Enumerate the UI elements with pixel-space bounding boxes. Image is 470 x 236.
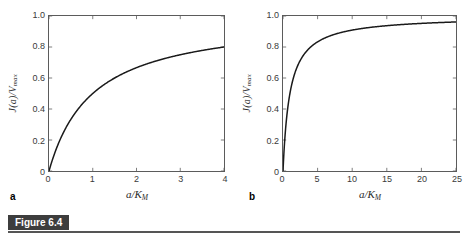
x-axis-title-main: a/K [359, 188, 375, 200]
y-tick-label: 0.8 [19, 42, 45, 51]
x-tick-label: 5 [314, 175, 319, 184]
plot-area-a [48, 15, 225, 172]
y-tick-label: 0.8 [253, 42, 279, 51]
y-tick-label: 0.6 [253, 73, 279, 82]
x-tick-label: 0 [279, 175, 284, 184]
x-axis-title-main: a/K [126, 188, 142, 200]
x-tick-label: 15 [382, 175, 392, 184]
y-axis-title-b: J(a)/Vmax [241, 58, 253, 128]
y-axis-title-main: J(a)/V [7, 86, 18, 112]
y-tick-label: 0 [19, 168, 45, 177]
y-tick-label: 0.2 [253, 136, 279, 145]
x-tick-label: 10 [347, 175, 357, 184]
x-axis-title-b: a/KM [359, 188, 381, 202]
x-tick-label: 25 [452, 175, 462, 184]
plot-curve-a [49, 16, 224, 171]
panel-letter-b: b [249, 191, 255, 202]
y-axis-ticks-b: 1.0 0.8 0.6 0.4 0.2 0 [251, 0, 279, 212]
figure-panel-a: 1.0 0.8 0.6 0.4 0.2 0 0 1 2 3 4 J(a)/Vma… [0, 0, 235, 212]
y-axis-ticks-a: 1.0 0.8 0.6 0.4 0.2 0 [17, 0, 45, 212]
x-axis-title-a: a/KM [126, 188, 148, 202]
panel-letter-a: a [10, 191, 16, 202]
y-tick-label: 0.4 [19, 105, 45, 114]
x-tick-label: 1 [90, 175, 95, 184]
x-axis-title-subscript: M [142, 193, 148, 202]
caption-divider-rule [8, 231, 460, 233]
figure-panel-b: 1.0 0.8 0.6 0.4 0.2 0 0 5 10 15 20 25 J(… [235, 0, 470, 212]
y-tick-label: 0 [253, 168, 279, 177]
y-tick-label: 0.6 [19, 73, 45, 82]
y-axis-title-a: J(a)/Vmax [7, 58, 19, 128]
x-axis-title-subscript: M [375, 193, 381, 202]
y-tick-label: 1.0 [253, 11, 279, 20]
y-tick-label: 1.0 [19, 11, 45, 20]
x-tick-label: 3 [178, 175, 183, 184]
x-tick-label: 2 [134, 175, 139, 184]
x-tick-label: 4 [222, 175, 227, 184]
x-tick-label: 0 [45, 175, 50, 184]
y-axis-title-subscript: max [11, 74, 19, 86]
y-axis-title-subscript: max [245, 74, 253, 86]
y-tick-label: 0.2 [19, 136, 45, 145]
plot-area-b [282, 15, 457, 172]
figure-caption-label: Figure 6.4 [8, 215, 69, 230]
figure-caption-bar: Figure 6.4 [0, 212, 470, 236]
y-tick-label: 0.4 [253, 105, 279, 114]
y-axis-title-main: J(a)/V [241, 86, 252, 112]
plot-curve-b [283, 16, 456, 171]
x-tick-label: 20 [417, 175, 427, 184]
